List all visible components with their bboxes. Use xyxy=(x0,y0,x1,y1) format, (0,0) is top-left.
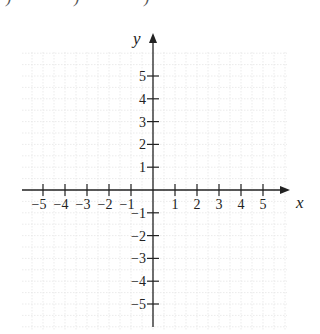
y-tick-label: 2 xyxy=(139,137,146,152)
y-tick-label: 3 xyxy=(139,115,146,130)
x-tick-label: −3 xyxy=(76,197,91,212)
y-tick-label: 5 xyxy=(139,69,146,84)
y-tick-label: −5 xyxy=(131,297,146,312)
x-tick-label: −2 xyxy=(98,197,113,212)
y-tick-label: −4 xyxy=(131,274,146,289)
x-tick-label: 2 xyxy=(194,197,201,212)
x-tick-label: 1 xyxy=(172,197,179,212)
x-tick-label: −4 xyxy=(54,197,69,212)
y-tick-label: 4 xyxy=(139,92,146,107)
grid-lines xyxy=(22,52,287,330)
y-tick-label: −1 xyxy=(131,206,146,221)
x-axis-label: x xyxy=(295,193,304,212)
x-tick-label: −5 xyxy=(32,197,47,212)
coordinate-plane: −5−4−3−2−11234554321−1−2−3−4−5 x y xyxy=(0,0,320,334)
y-axis-label: y xyxy=(131,29,141,48)
x-tick-label: 3 xyxy=(216,197,223,212)
x-tick-label: 4 xyxy=(238,197,245,212)
axes xyxy=(22,33,290,327)
y-tick-label: 1 xyxy=(139,160,146,175)
y-axis-arrow-icon xyxy=(149,33,157,43)
x-tick-label: 5 xyxy=(260,197,267,212)
y-tick-label: −2 xyxy=(131,229,146,244)
y-tick-label: −3 xyxy=(131,251,146,266)
